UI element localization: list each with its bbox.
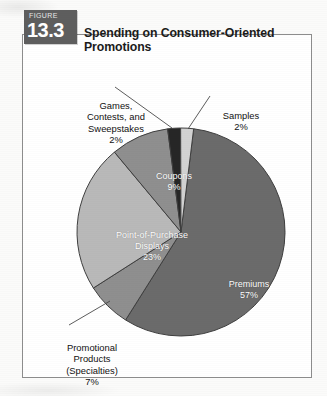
slice-label-coupons-value: 9% bbox=[167, 182, 180, 192]
figure-number-label: 13.3 bbox=[27, 19, 64, 41]
slice-label-premiums-name: Premiums bbox=[229, 279, 270, 289]
slice-label-games-line3: Sweepstakes bbox=[88, 123, 144, 134]
slice-label-games-contests-sweepstakes: Games, Contests, and Sweepstakes 2% bbox=[64, 100, 168, 146]
slice-label-promo-line3: (Specialties) bbox=[66, 365, 118, 376]
slice-label-point-of-purchase-displays: Point-of-Purchase Displays 23% bbox=[100, 230, 204, 263]
slice-label-games-value: 2% bbox=[109, 134, 123, 145]
leader-line-samples bbox=[188, 96, 210, 129]
slice-label-premiums-value: 57% bbox=[240, 290, 258, 300]
slice-label-samples-name: Samples bbox=[223, 110, 259, 121]
slice-label-samples: Samples 2% bbox=[210, 110, 272, 133]
slice-label-coupons: Coupons 9% bbox=[144, 171, 204, 193]
slice-label-games-line1: Games, bbox=[100, 100, 133, 111]
slice-label-promo-line1: Promotional bbox=[67, 342, 117, 353]
slice-label-promotional-products: Promotional Products (Specialties) 7% bbox=[40, 342, 144, 388]
leader-line-promotional-products bbox=[69, 301, 110, 325]
page-scan-artifact-bottom-left bbox=[0, 382, 120, 396]
slice-label-games-line2: Contests, and bbox=[87, 111, 145, 122]
figure-container: FIGURE 13.3 Spending on Consumer-Oriente… bbox=[0, 0, 327, 396]
slice-label-pop-value: 23% bbox=[143, 252, 161, 262]
pie-chart-svg bbox=[22, 34, 312, 378]
slice-label-pop-line1: Point-of-Purchase bbox=[116, 230, 188, 240]
slice-label-samples-value: 2% bbox=[234, 121, 248, 132]
slice-label-pop-line2: Displays bbox=[135, 241, 169, 251]
figure-number-tab: FIGURE 13.3 bbox=[24, 10, 77, 44]
slice-label-premiums: Premiums 57% bbox=[214, 279, 284, 301]
slice-label-coupons-name: Coupons bbox=[156, 171, 192, 181]
slice-label-promo-line2: Products bbox=[74, 353, 111, 364]
figure-title: Spending on Consumer-Oriented Promotions bbox=[84, 26, 308, 54]
pie-chart: Premiums 57% Point-of-Purchase Displays … bbox=[22, 34, 312, 378]
